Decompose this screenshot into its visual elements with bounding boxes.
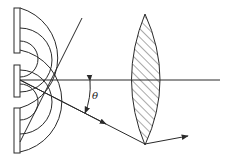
converging-lens bbox=[132, 14, 161, 145]
angle-arc bbox=[85, 81, 90, 113]
barrier-middle bbox=[14, 65, 20, 97]
diagram-svg bbox=[0, 0, 231, 158]
barrier-top bbox=[14, 8, 20, 53]
diagram-canvas: θ bbox=[0, 0, 231, 158]
angle-label: θ bbox=[92, 90, 98, 101]
focused-ray bbox=[145, 136, 188, 144]
barrier-bottom bbox=[14, 108, 20, 153]
